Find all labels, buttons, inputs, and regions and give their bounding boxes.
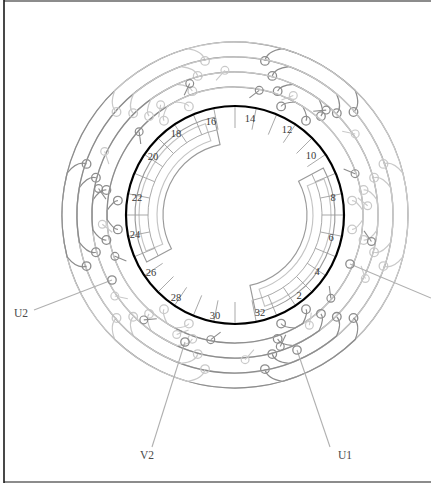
slot-number-12: 12 (279, 124, 295, 135)
leader-line-U2 (34, 280, 112, 310)
slot-number-28: 28 (168, 292, 184, 303)
diagram-canvas: 2468101214161820222426283032U1V2U2 (0, 0, 431, 483)
slot-number-18: 18 (168, 128, 184, 139)
terminal-label-U2: U2 (14, 307, 28, 319)
slot-number-32: 32 (252, 307, 268, 318)
slot-number-16: 16 (203, 116, 219, 127)
slot-number-10: 10 (303, 150, 319, 161)
stator-outline-layer (126, 106, 344, 324)
slot-number-24: 24 (127, 229, 143, 240)
slot-number-26: 26 (143, 267, 159, 278)
slot-number-20: 20 (145, 151, 161, 162)
stator-winding-svg (0, 0, 431, 483)
terminal-label-V2: V2 (140, 449, 154, 461)
slot-number-30: 30 (207, 310, 223, 321)
inner-coil-band-layer (135, 117, 335, 313)
slot-number-8: 8 (325, 192, 341, 203)
terminal-label-U1: U1 (338, 449, 352, 461)
terminal-leader-layer (34, 260, 431, 447)
slot-number-14: 14 (242, 113, 258, 124)
slot-number-6: 6 (323, 232, 339, 243)
slot-number-2: 2 (291, 290, 307, 301)
leader-line-U1 (297, 350, 330, 447)
slot-number-22: 22 (129, 192, 145, 203)
winding-arcs-layer (62, 42, 408, 388)
slot-number-4: 4 (309, 266, 325, 277)
